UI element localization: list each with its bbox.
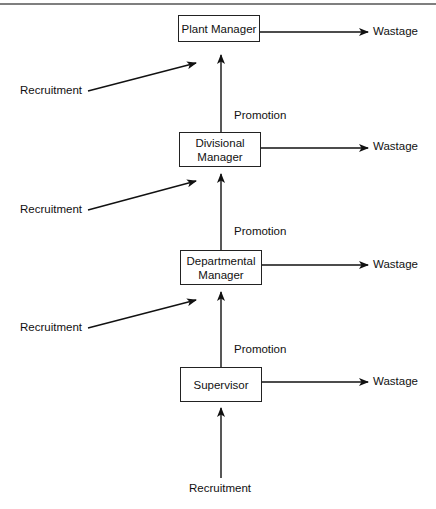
node-departmental-line1: Departmental [186,254,255,268]
recruitment-label-plant: Recruitment [20,84,82,96]
node-divisional-manager: Divisional Manager [179,132,261,167]
recruitment-arrow-departmental [88,300,196,328]
wastage-label-plant: Wastage [373,25,418,37]
recruitment-label-divisional: Recruitment [20,203,82,215]
node-plant-manager: Plant Manager [178,15,260,42]
recruitment-label-departmental: Recruitment [20,321,82,333]
wastage-label-supervisor: Wastage [373,375,418,387]
wastage-label-divisional: Wastage [373,140,418,152]
node-divisional-line1: Divisional [195,136,244,150]
recruitment-label-supervisor: Recruitment [189,482,251,494]
recruitment-arrow-plant [88,63,196,91]
node-plant-manager-label: Plant Manager [182,22,257,36]
node-divisional-line2: Manager [197,150,242,164]
node-supervisor: Supervisor [180,367,262,402]
promotion-label-divisional: Promotion [234,225,286,237]
wastage-label-departmental: Wastage [373,258,418,270]
promotion-label-plant: Promotion [234,109,286,121]
node-departmental-line2: Manager [198,268,243,282]
recruitment-arrow-divisional [88,181,196,210]
node-departmental-manager: Departmental Manager [180,250,262,285]
node-supervisor-label: Supervisor [194,378,249,392]
promotion-label-departmental: Promotion [234,343,286,355]
